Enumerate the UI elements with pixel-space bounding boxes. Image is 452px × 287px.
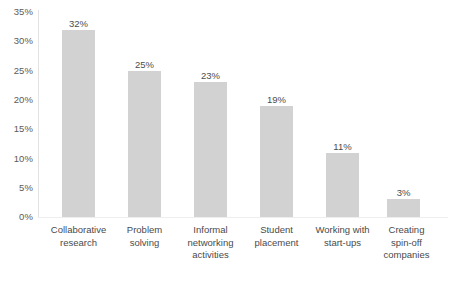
bar-value-problem-solving: 25% <box>120 59 169 70</box>
bar-value-collaborative-research: 32% <box>54 18 103 29</box>
y-tick-label-10: 10% <box>0 154 33 164</box>
category-line: placement <box>246 237 307 250</box>
category-label-problem-solving: Problem solving <box>114 224 175 249</box>
plot-area: 32% 25% 23% 19% 11% 3% <box>38 12 448 217</box>
bar-slot-informal-networking-activities: 23% <box>194 12 227 217</box>
bar-value-student-placement: 19% <box>252 94 301 105</box>
category-label-student-placement: Student placement <box>246 224 307 249</box>
category-line: research <box>46 237 111 250</box>
y-tick-label-30: 30% <box>0 36 33 46</box>
category-line: companies <box>375 249 438 262</box>
category-line: Informal <box>178 224 243 237</box>
category-label-creating-spin-off-companies: Creating spin-off companies <box>375 224 438 262</box>
bar-slot-working-with-start-ups: 11% <box>326 12 359 217</box>
bar-value-informal-networking-activities: 23% <box>186 70 235 81</box>
bar-value-creating-spin-off-companies: 3% <box>379 187 428 198</box>
y-tick-label-35: 35% <box>0 7 33 17</box>
bar-slot-creating-spin-off-companies: 3% <box>387 12 420 217</box>
category-line: Student <box>246 224 307 237</box>
x-axis-categories: Collaborative research Problem solving I… <box>38 224 448 284</box>
bar-informal-networking-activities <box>194 82 227 217</box>
category-line: Problem <box>114 224 175 237</box>
y-tick-label-25: 25% <box>0 66 33 76</box>
bar-working-with-start-ups <box>326 153 359 217</box>
bar-collaborative-research <box>62 30 95 217</box>
category-label-informal-networking-activities: Informal networking activities <box>178 224 243 262</box>
bar-slot-collaborative-research: 32% <box>62 12 95 217</box>
bar-student-placement <box>260 106 293 217</box>
y-tick-label-0: 0% <box>0 212 33 222</box>
bar-slot-problem-solving: 25% <box>128 12 161 217</box>
y-axis: 35% 30% 25% 20% 15% 10% 5% 0% <box>0 0 38 226</box>
bar-creating-spin-off-companies <box>387 199 420 217</box>
y-tick-label-20: 20% <box>0 95 33 105</box>
bar-problem-solving <box>128 71 161 217</box>
x-axis-line <box>38 217 448 218</box>
y-tick-label-5: 5% <box>0 183 33 193</box>
category-label-collaborative-research: Collaborative research <box>46 224 111 249</box>
category-line: activities <box>178 249 243 262</box>
bar-value-working-with-start-ups: 11% <box>318 141 367 152</box>
category-line: Collaborative <box>46 224 111 237</box>
category-line: solving <box>114 237 175 250</box>
bar-chart: 35% 30% 25% 20% 15% 10% 5% 0% 32% 25% 23… <box>0 0 452 287</box>
category-line: networking <box>178 237 243 250</box>
category-label-working-with-start-ups: Working with start-ups <box>308 224 377 249</box>
y-tick-label-15: 15% <box>0 124 33 134</box>
bar-slot-student-placement: 19% <box>260 12 293 217</box>
category-line: Working with <box>308 224 377 237</box>
category-line: spin-off <box>375 237 438 250</box>
category-line: start-ups <box>308 237 377 250</box>
category-line: Creating <box>375 224 438 237</box>
